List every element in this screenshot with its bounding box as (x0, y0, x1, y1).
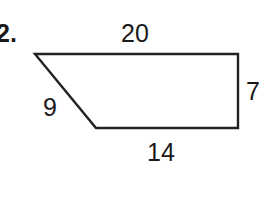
right-side-label: 7 (246, 79, 260, 104)
slant-side-label: 9 (43, 95, 57, 120)
top-side-label: 20 (121, 21, 149, 46)
bottom-side-label: 14 (147, 140, 175, 165)
problem-figure: 2. 20 7 9 14 (0, 0, 267, 201)
